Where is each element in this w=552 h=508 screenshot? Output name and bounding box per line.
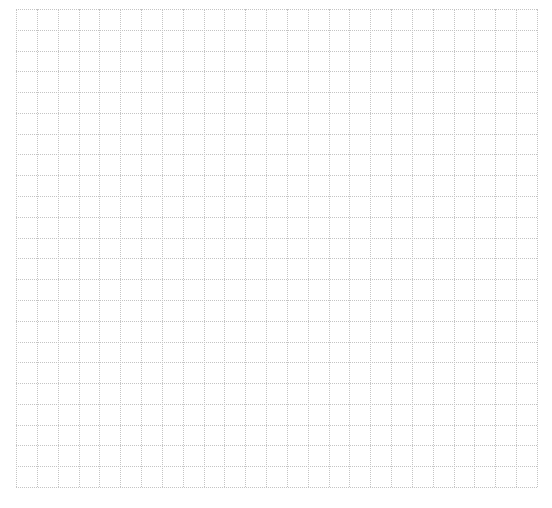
- grid-horizontal-line: [16, 258, 537, 259]
- grid-horizontal-line: [16, 134, 537, 135]
- grid-horizontal-line: [16, 30, 537, 31]
- grid-vertical-line: [99, 9, 100, 487]
- grid-horizontal-line: [16, 362, 537, 363]
- grid-horizontal-line: [16, 487, 537, 488]
- grid-vertical-line: [370, 9, 371, 487]
- grid-horizontal-line: [16, 92, 537, 93]
- grid-horizontal-line: [16, 175, 537, 176]
- grid-vertical-line: [58, 9, 59, 487]
- grid-horizontal-line: [16, 217, 537, 218]
- grid-vertical-line: [79, 9, 80, 487]
- grid-vertical-line: [537, 9, 538, 487]
- grid-horizontal-line: [16, 113, 537, 114]
- grid-vertical-line: [162, 9, 163, 487]
- grid-vertical-line: [412, 9, 413, 487]
- grid-vertical-line: [141, 9, 142, 487]
- grid-vertical-line: [495, 9, 496, 487]
- grid-horizontal-line: [16, 51, 537, 52]
- grid-vertical-line: [204, 9, 205, 487]
- grid-vertical-line: [245, 9, 246, 487]
- grid-horizontal-line: [16, 342, 537, 343]
- grid-vertical-line: [120, 9, 121, 487]
- grid-horizontal-line: [16, 9, 537, 10]
- grid-vertical-line: [16, 9, 17, 487]
- grid-horizontal-line: [16, 196, 537, 197]
- grid-vertical-line: [287, 9, 288, 487]
- grid-vertical-line: [224, 9, 225, 487]
- grid-vertical-line: [474, 9, 475, 487]
- grid-horizontal-line: [16, 383, 537, 384]
- grid-vertical-line: [349, 9, 350, 487]
- grid-horizontal-line: [16, 154, 537, 155]
- grid-paper: [16, 9, 537, 487]
- grid-vertical-line: [183, 9, 184, 487]
- grid-horizontal-line: [16, 238, 537, 239]
- grid-vertical-line: [308, 9, 309, 487]
- grid-horizontal-line: [16, 300, 537, 301]
- grid-horizontal-line: [16, 466, 537, 467]
- grid-vertical-line: [266, 9, 267, 487]
- grid-horizontal-line: [16, 321, 537, 322]
- grid-horizontal-line: [16, 425, 537, 426]
- grid-vertical-line: [454, 9, 455, 487]
- grid-horizontal-line: [16, 279, 537, 280]
- grid-horizontal-line: [16, 445, 537, 446]
- grid-vertical-line: [433, 9, 434, 487]
- grid-horizontal-line: [16, 404, 537, 405]
- grid-vertical-line: [329, 9, 330, 487]
- page: [0, 0, 552, 508]
- grid-horizontal-line: [16, 71, 537, 72]
- grid-vertical-line: [37, 9, 38, 487]
- grid-vertical-line: [516, 9, 517, 487]
- grid-vertical-line: [391, 9, 392, 487]
